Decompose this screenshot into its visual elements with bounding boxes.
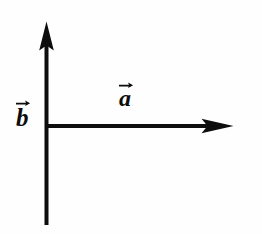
vector-diagram-figure: a b bbox=[0, 0, 262, 234]
vector-a-label: a bbox=[119, 86, 131, 110]
vector-a-label-text: a bbox=[119, 86, 131, 110]
vector-diagram-canvas bbox=[0, 0, 262, 234]
vector-b-label: b bbox=[16, 105, 29, 130]
vector-b-label-text: b bbox=[16, 105, 29, 130]
